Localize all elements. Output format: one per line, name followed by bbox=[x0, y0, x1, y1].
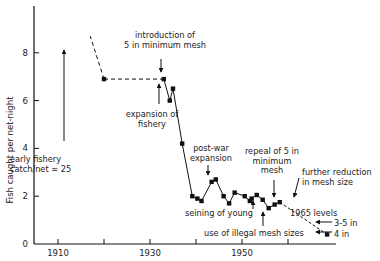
annotation-text: use of illegal mesh sizes bbox=[204, 228, 304, 238]
data-point bbox=[209, 180, 213, 184]
annotation-text: early fisherycatch/net ≃ 25 bbox=[10, 154, 71, 174]
data-point bbox=[180, 141, 184, 145]
data-point bbox=[102, 77, 106, 81]
y-tick-label: 6 bbox=[23, 96, 28, 106]
annotation-text: introduction of5 in minimum mesh bbox=[124, 30, 206, 50]
fishery-catch-chart: 02468191019301950 early fisherycatch/net… bbox=[0, 0, 380, 261]
data-point bbox=[266, 206, 270, 210]
annotation-text: post-warexpansion bbox=[190, 143, 232, 163]
x-tick-label: 1910 bbox=[47, 248, 69, 258]
data-point bbox=[168, 98, 172, 102]
y-tick-label: 8 bbox=[23, 48, 28, 58]
data-point bbox=[232, 190, 236, 194]
data-point bbox=[243, 194, 247, 198]
data-series bbox=[90, 36, 329, 237]
annotation-text: repeal of 5 inminimummesh bbox=[245, 146, 299, 175]
data-point bbox=[325, 232, 329, 236]
data-point bbox=[249, 196, 253, 200]
data-point bbox=[261, 198, 265, 202]
y-tick-label: 2 bbox=[23, 191, 28, 201]
early-fishery-dashed-line bbox=[90, 36, 104, 79]
data-point bbox=[214, 177, 218, 181]
data-point bbox=[221, 194, 225, 198]
annotations: early fisherycatch/net ≃ 25introduction … bbox=[10, 30, 372, 239]
data-point bbox=[171, 86, 175, 90]
data-point bbox=[190, 194, 194, 198]
data-point bbox=[199, 199, 203, 203]
annotation-arrow bbox=[294, 178, 299, 197]
data-point bbox=[227, 201, 231, 205]
y-tick-label: 4 bbox=[23, 143, 28, 153]
y-axis-label: Fish caught per net-night bbox=[5, 96, 15, 204]
annotation-text: further reductionin mesh size bbox=[302, 167, 372, 187]
annotation-text: 4 in bbox=[334, 229, 349, 239]
data-point bbox=[162, 77, 166, 81]
annotation-text: 3-5 in bbox=[334, 218, 357, 228]
x-tick-label: 1950 bbox=[231, 248, 253, 258]
annotation-text: expansion offishery bbox=[126, 109, 179, 129]
data-point bbox=[195, 196, 199, 200]
data-point bbox=[255, 193, 259, 197]
annotation-text: seining of young bbox=[185, 208, 253, 218]
data-point bbox=[272, 202, 276, 206]
y-tick-label: 0 bbox=[23, 239, 28, 249]
x-tick-label: 1930 bbox=[139, 248, 161, 258]
annotation-text: 1965 levels bbox=[290, 208, 337, 218]
